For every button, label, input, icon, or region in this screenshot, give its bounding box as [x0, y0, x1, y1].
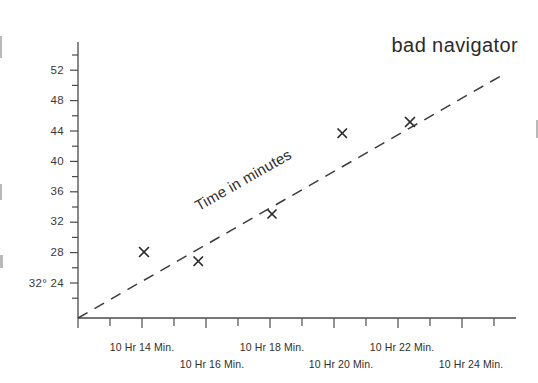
y-axis-tick-value: 24	[51, 277, 64, 289]
y-axis-tick-label-52: 52	[8, 64, 64, 76]
y-axis-ticks	[70, 55, 78, 298]
plot-area	[0, 0, 538, 383]
y-axis-tick-label-32: 32	[8, 215, 64, 227]
y-axis-tick-label-48: 48	[8, 94, 64, 106]
x-axis-tick-label-1024: 10 Hr 24 Min.	[439, 358, 503, 370]
y-axis-tick-label-36: 36	[8, 185, 64, 197]
x-axis-tick-label-1016: 10 Hr 16 Min.	[180, 358, 244, 370]
y-axis-tick-label-28: 28	[8, 246, 64, 258]
x-axis-ticks	[78, 318, 494, 328]
x-axis-tick-label-1022: 10 Hr 22 Min.	[370, 341, 434, 353]
x-axis-tick-label-1014: 10 Hr 14 Min.	[110, 341, 174, 353]
data-point-marker	[268, 210, 276, 218]
y-axis-origin-prefix: 32°	[29, 277, 47, 289]
data-point-marker	[406, 118, 415, 127]
y-axis-tick-label-40: 40	[8, 155, 64, 167]
data-point-marker	[194, 257, 203, 266]
trend-line-dashed	[78, 73, 506, 318]
data-point-markers	[140, 118, 415, 266]
x-axis-tick-label-1018: 10 Hr 18 Min.	[240, 341, 304, 353]
x-axis-tick-label-1020: 10 Hr 20 Min.	[309, 358, 373, 370]
y-axis-tick-label-44: 44	[8, 125, 64, 137]
data-point-marker	[140, 248, 149, 257]
chart-figure: 32° 24 28 32 36 40 44 48 52 10 Hr 14 Min…	[0, 0, 538, 383]
y-axis-tick-label-24: 32° 24	[8, 277, 64, 289]
data-point-marker	[338, 129, 347, 138]
chart-title: bad navigator	[392, 34, 518, 57]
